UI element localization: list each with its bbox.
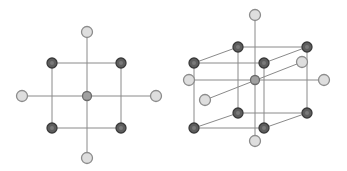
atom-node-light — [319, 75, 330, 86]
atom-node-light — [82, 153, 93, 164]
lattice-edge — [264, 113, 307, 128]
atom-core-icon — [236, 111, 240, 115]
3d-cubic-lattice — [184, 10, 330, 147]
atom-node-light — [184, 75, 195, 86]
atom-node-mid — [251, 76, 260, 85]
atom-core-icon — [305, 45, 309, 49]
lattice-edge — [194, 113, 238, 128]
atom-core-icon — [192, 126, 196, 130]
atom-core-icon — [50, 61, 54, 65]
atom-core-icon — [236, 45, 240, 49]
planar-octahedral-projection — [17, 27, 162, 164]
atom-node-light — [151, 91, 162, 102]
atom-core-icon — [50, 126, 54, 130]
atom-core-icon — [119, 61, 123, 65]
atom-core-icon — [262, 61, 266, 65]
atom-node-light — [250, 136, 261, 147]
atom-node-light — [200, 95, 211, 106]
lattice-diagram — [0, 0, 347, 171]
atom-core-icon — [119, 126, 123, 130]
atom-node-light — [82, 27, 93, 38]
atom-node-light — [250, 10, 261, 21]
atom-node-mid — [83, 92, 92, 101]
atom-node-light — [17, 91, 28, 102]
lattice-edge — [194, 47, 238, 63]
atom-core-icon — [262, 126, 266, 130]
atom-core-icon — [305, 111, 309, 115]
atom-node-light — [297, 57, 308, 68]
atom-core-icon — [192, 61, 196, 65]
